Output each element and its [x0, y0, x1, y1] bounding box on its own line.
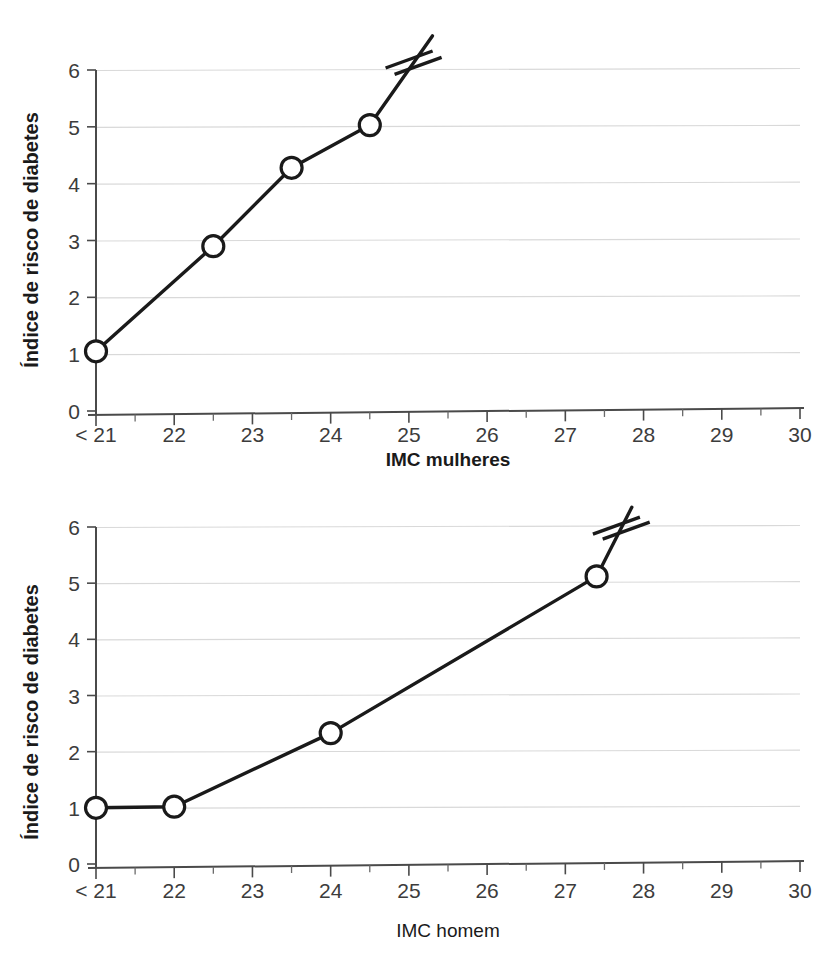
x-tick-label-21: < 21 — [75, 879, 116, 902]
chart-women: 0123456< 21222324252627282930Índice de r… — [0, 0, 832, 480]
y-tick-label-1: 1 — [68, 343, 80, 366]
gridline-y-2 — [96, 296, 800, 298]
x-tick-label-25: 25 — [397, 423, 420, 446]
gridline-y-1 — [96, 353, 800, 355]
x-axis-line — [88, 861, 804, 868]
gridline-y-6 — [96, 526, 800, 528]
data-markers — [86, 566, 608, 818]
figure-page: 0123456< 21222324252627282930Índice de r… — [0, 0, 832, 957]
x-tick-label-23: 23 — [241, 879, 264, 902]
axis-break-slash-1 — [386, 51, 433, 68]
y-tick-label-2: 2 — [68, 286, 80, 309]
data-point-1 — [164, 796, 185, 817]
x-tick-label-21: < 21 — [75, 423, 116, 446]
gridline-y-6 — [96, 69, 800, 71]
y-tick-label-6: 6 — [68, 516, 80, 539]
x-tick-label-29: 29 — [710, 879, 733, 902]
x-tick-label-22: 22 — [163, 879, 186, 902]
gridlines — [96, 526, 800, 809]
gridline-y-3 — [96, 694, 800, 696]
gridline-y-2 — [96, 750, 800, 752]
data-point-1 — [203, 236, 224, 257]
y-tick-label-2: 2 — [68, 741, 80, 764]
y-tick-label-1: 1 — [68, 797, 80, 820]
data-point-0 — [86, 341, 107, 362]
x-tick-label-24: 24 — [319, 879, 343, 902]
x-tick-label-30: 30 — [788, 423, 811, 446]
gridlines — [96, 69, 800, 355]
data-point-2 — [281, 157, 302, 178]
chart-women-canvas: 0123456< 21222324252627282930Índice de r… — [0, 0, 832, 480]
y-tick-label-3: 3 — [68, 685, 80, 708]
x-tick-label-25: 25 — [397, 879, 420, 902]
y-axis-title: Índice de risco de diabetes — [20, 584, 42, 840]
y-tick-label-3: 3 — [68, 230, 80, 253]
data-point-3 — [586, 566, 607, 587]
x-tick-label-26: 26 — [475, 879, 498, 902]
x-tick-label-23: 23 — [241, 423, 264, 446]
y-tick-label-4: 4 — [68, 628, 80, 651]
data-markers — [86, 115, 381, 362]
x-tick-label-28: 28 — [632, 879, 655, 902]
x-tick-label-30: 30 — [788, 879, 811, 902]
x-axis-line — [88, 408, 804, 415]
x-tick-label-27: 27 — [554, 423, 577, 446]
gridline-y-3 — [96, 239, 800, 241]
x-axis-title: IMC homem — [396, 920, 499, 941]
y-axis-ticks: 0123456 — [68, 59, 96, 423]
y-tick-label-6: 6 — [68, 59, 80, 82]
gridline-y-5 — [96, 582, 800, 584]
y-tick-label-5: 5 — [68, 572, 80, 595]
y-tick-label-0: 0 — [68, 400, 80, 423]
x-tick-label-29: 29 — [710, 423, 733, 446]
x-tick-label-26: 26 — [475, 423, 498, 446]
x-tick-label-22: 22 — [163, 423, 186, 446]
gridline-y-4 — [96, 638, 800, 640]
data-point-3 — [359, 115, 380, 136]
chart-men-canvas: 0123456< 21222324252627282930Índice de r… — [0, 480, 832, 957]
gridline-y-1 — [96, 806, 800, 808]
gridline-y-4 — [96, 182, 800, 184]
data-point-2 — [320, 723, 341, 744]
x-tick-label-27: 27 — [554, 879, 577, 902]
data-point-0 — [86, 797, 107, 818]
data-line — [96, 507, 632, 808]
axis-break-slash-2 — [603, 522, 650, 539]
axis-break-slash-2 — [395, 57, 442, 74]
y-tick-label-5: 5 — [68, 116, 80, 139]
x-tick-label-28: 28 — [632, 423, 655, 446]
data-line — [96, 36, 432, 351]
y-tick-label-4: 4 — [68, 173, 80, 196]
y-axis-title: Índice de risco de diabetes — [20, 112, 42, 368]
gridline-y-5 — [96, 125, 800, 127]
x-axis-title: IMC mulheres — [386, 449, 511, 470]
x-tick-label-24: 24 — [319, 423, 343, 446]
chart-men: 0123456< 21222324252627282930Índice de r… — [0, 480, 832, 957]
y-tick-label-0: 0 — [68, 853, 80, 876]
y-axis-ticks: 0123456 — [68, 516, 96, 876]
